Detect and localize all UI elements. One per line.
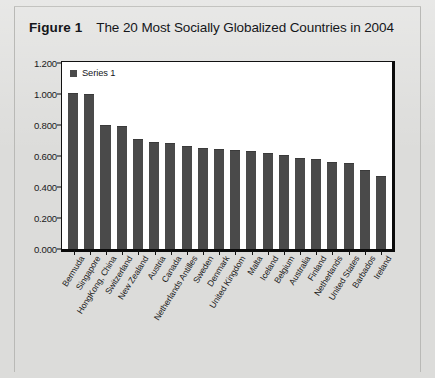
bar-slot bbox=[243, 62, 259, 249]
bar-slot bbox=[227, 62, 243, 249]
bar[interactable] bbox=[133, 139, 143, 250]
bar-slot bbox=[308, 62, 324, 249]
bar-slot bbox=[97, 62, 113, 249]
y-axis-tick-label: 1.000 bbox=[34, 88, 57, 99]
bar-slot bbox=[357, 62, 373, 249]
bar-slot bbox=[373, 62, 389, 249]
bar-slot bbox=[65, 62, 81, 249]
bar-slot bbox=[259, 62, 275, 249]
bar[interactable] bbox=[84, 94, 94, 249]
figure-container: Figure 1 The 20 Most Socially Globalized… bbox=[0, 0, 435, 378]
legend-swatch-series-1 bbox=[70, 70, 77, 77]
x-axis-labels: BermudaSingaporeHongKong, ChinaSwitzerla… bbox=[61, 254, 395, 344]
bar[interactable] bbox=[295, 158, 305, 249]
bar[interactable] bbox=[327, 162, 337, 249]
bar[interactable] bbox=[263, 153, 273, 249]
bar[interactable] bbox=[344, 163, 354, 249]
bar[interactable] bbox=[311, 159, 321, 249]
y-axis-tick-label: 1.200 bbox=[34, 57, 57, 68]
bar[interactable] bbox=[214, 149, 224, 249]
bar[interactable] bbox=[230, 150, 240, 249]
bar[interactable] bbox=[360, 170, 370, 249]
bar-group bbox=[62, 62, 392, 249]
figure-title-text: The 20 Most Socially Globalized Countrie… bbox=[96, 20, 394, 35]
plot-area: Series 1 bbox=[61, 61, 395, 252]
bar-slot bbox=[292, 62, 308, 249]
y-axis-tick-label: 0.600 bbox=[34, 150, 57, 161]
bar[interactable] bbox=[279, 155, 289, 249]
bar[interactable] bbox=[149, 142, 159, 249]
bar[interactable] bbox=[100, 125, 110, 249]
y-axis-tick-label: 0.200 bbox=[34, 212, 57, 223]
bar-slot bbox=[195, 62, 211, 249]
y-axis: 0.0000.2000.4000.6000.8001.0001.200 bbox=[29, 55, 61, 252]
bar-slot bbox=[81, 62, 97, 249]
figure-number-label: Figure 1 bbox=[29, 20, 82, 35]
bar[interactable] bbox=[198, 148, 208, 249]
bar-slot bbox=[324, 62, 340, 249]
bar-slot bbox=[211, 62, 227, 249]
bar-slot bbox=[340, 62, 356, 249]
bar[interactable] bbox=[68, 93, 78, 249]
bar[interactable] bbox=[182, 146, 192, 249]
bar-slot bbox=[130, 62, 146, 249]
bar[interactable] bbox=[117, 126, 127, 249]
figure-title-row: Figure 1 The 20 Most Socially Globalized… bbox=[29, 20, 419, 40]
chart-legend: Series 1 bbox=[70, 68, 115, 78]
bar[interactable] bbox=[165, 143, 175, 249]
bar-slot bbox=[276, 62, 292, 249]
bar-slot bbox=[114, 62, 130, 249]
bar[interactable] bbox=[246, 151, 256, 249]
y-axis-tick-label: 0.400 bbox=[34, 181, 57, 192]
bar-slot bbox=[146, 62, 162, 249]
legend-label-series-1: Series 1 bbox=[82, 68, 115, 78]
chart: 0.0000.2000.4000.6000.8001.0001.200 Seri… bbox=[29, 55, 405, 345]
y-axis-tick-label: 0.800 bbox=[34, 119, 57, 130]
bar[interactable] bbox=[376, 176, 386, 249]
bar-slot bbox=[162, 62, 178, 249]
y-axis-tick-label: 0.000 bbox=[34, 244, 57, 255]
bar-slot bbox=[178, 62, 194, 249]
